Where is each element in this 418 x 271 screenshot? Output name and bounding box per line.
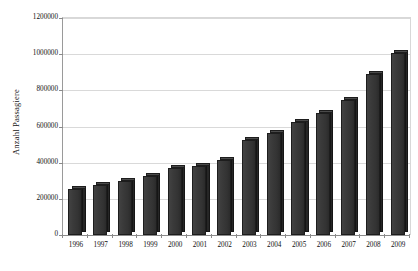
bar-side-face	[355, 97, 358, 232]
bar-1996	[68, 186, 82, 235]
bar-front-face	[217, 160, 231, 235]
y-tick-label: 1200000	[2, 13, 58, 21]
bar-front-face	[168, 168, 182, 235]
bar-front-face	[291, 122, 305, 235]
x-tick-label: 2007	[341, 241, 355, 249]
x-tick-mark	[285, 234, 286, 238]
bar-side-face	[132, 178, 135, 232]
bar-side-face	[82, 186, 85, 232]
x-tick-mark	[136, 234, 137, 238]
x-tick-mark	[211, 234, 212, 238]
bar-front-face	[341, 100, 355, 235]
x-tick-label: 1998	[118, 241, 132, 249]
x-tick-label: 1997	[94, 241, 108, 249]
bar-2004	[267, 130, 281, 235]
x-tick-label: 2008	[366, 241, 380, 249]
bar-front-face	[316, 113, 330, 235]
bar-side-face	[157, 173, 160, 232]
x-tick-label: 2003	[242, 241, 256, 249]
x-tick-mark	[186, 234, 187, 238]
bar-2000	[168, 165, 182, 235]
y-tick-label: 600000	[2, 122, 58, 130]
x-axis: 1996199719981999200020012002200320042005…	[62, 234, 409, 271]
bar-front-face	[267, 133, 281, 235]
bar-front-face	[143, 176, 157, 235]
bar-side-face	[256, 137, 259, 232]
x-tick-mark	[260, 234, 261, 238]
bar-2006	[316, 110, 330, 235]
x-tick-label: 2002	[218, 241, 232, 249]
bar-2007	[341, 97, 355, 235]
x-tick-mark	[161, 234, 162, 238]
bar-front-face	[118, 181, 132, 235]
bar-front-face	[192, 166, 206, 235]
bar-side-face	[182, 165, 185, 232]
y-tick-label: 1000000	[2, 49, 58, 57]
bar-2005	[291, 119, 305, 235]
bar-2003	[242, 137, 256, 235]
bar-side-face	[206, 163, 209, 232]
x-tick-mark	[87, 234, 88, 238]
bar-side-face	[380, 71, 383, 232]
bar-1999	[143, 173, 157, 235]
x-tick-mark	[112, 234, 113, 238]
bar-side-face	[107, 182, 110, 232]
x-tick-mark	[236, 234, 237, 238]
bar-front-face	[68, 189, 82, 235]
x-tick-label: 2001	[193, 241, 207, 249]
bar-side-face	[231, 157, 234, 232]
x-tick-label: 2000	[168, 241, 182, 249]
y-tick-label: 400000	[2, 158, 58, 166]
x-tick-label: 1999	[143, 241, 157, 249]
bar-1998	[118, 178, 132, 235]
bar-chart: Anzahl Passagiere 0200000400000600000800…	[0, 0, 418, 271]
x-tick-label: 2004	[267, 241, 281, 249]
x-tick-mark	[62, 234, 63, 238]
bar-side-face	[305, 119, 308, 232]
x-tick-label: 2006	[317, 241, 331, 249]
bar-front-face	[242, 140, 256, 235]
y-tick-label: 200000	[2, 194, 58, 202]
bar-2002	[217, 157, 231, 235]
x-tick-mark	[335, 234, 336, 238]
y-tick-label: 0	[2, 230, 58, 238]
bar-2008	[366, 71, 380, 235]
bars-layer	[63, 18, 410, 235]
x-tick-label: 1996	[69, 241, 83, 249]
y-tick-label: 800000	[2, 85, 58, 93]
bar-side-face	[405, 50, 408, 232]
bar-2001	[192, 163, 206, 235]
bar-1997	[93, 182, 107, 235]
plot-area	[62, 17, 411, 235]
x-tick-mark	[310, 234, 311, 238]
bar-front-face	[366, 74, 380, 235]
x-tick-mark	[409, 234, 410, 238]
bar-2009	[391, 50, 405, 235]
bar-side-face	[330, 110, 333, 232]
x-tick-mark	[359, 234, 360, 238]
x-tick-label: 2005	[292, 241, 306, 249]
bar-front-face	[93, 185, 107, 235]
bar-front-face	[391, 53, 405, 235]
x-tick-label: 2009	[391, 241, 405, 249]
x-tick-mark	[384, 234, 385, 238]
bar-side-face	[281, 130, 284, 232]
